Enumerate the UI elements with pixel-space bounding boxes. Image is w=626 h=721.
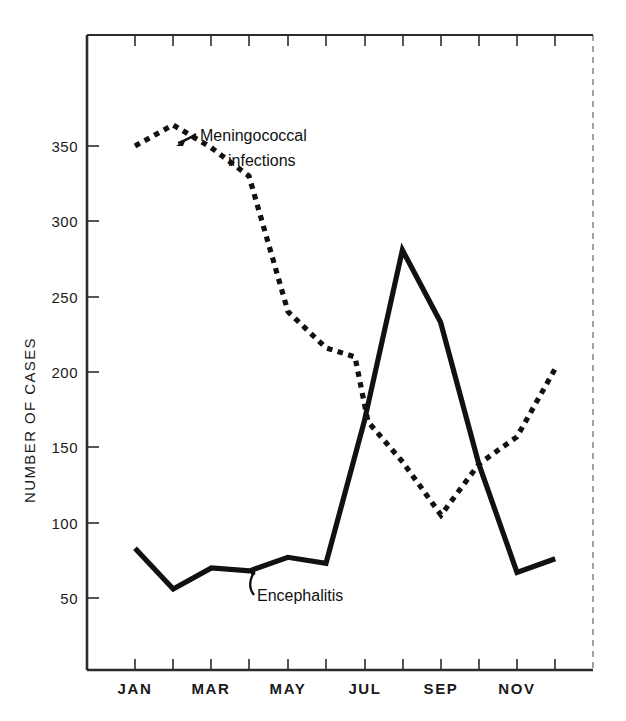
y-tick-label-150: 150	[51, 439, 78, 456]
x-tick-label-sep: SEP	[424, 680, 459, 697]
meningococcal-label-line2: infections	[228, 152, 296, 169]
line-chart: 350 300 250 200 150 100 50 NUMBER OF CAS…	[0, 0, 626, 721]
meningococcal-label-line1: Meningococcal	[200, 127, 307, 144]
encephalitis-pointer-dot-icon	[251, 571, 256, 576]
y-tick-label-350: 350	[51, 138, 78, 155]
x-tick-label-jan: JAN	[118, 680, 153, 697]
x-tick-label-nov: NOV	[498, 680, 535, 697]
x-tick-label-mar: MAR	[192, 680, 231, 697]
chart-figure: 350 300 250 200 150 100 50 NUMBER OF CAS…	[0, 0, 626, 721]
x-tick-label-jul: JUL	[348, 680, 381, 697]
y-tick-label-100: 100	[51, 515, 78, 532]
y-tick-label-250: 250	[51, 289, 78, 306]
y-tick-label-200: 200	[51, 364, 78, 381]
y-tick-label-300: 300	[51, 213, 78, 230]
y-axis-title: NUMBER OF CASES	[21, 337, 38, 503]
y-tick-label-50: 50	[60, 590, 78, 607]
encephalitis-label: Encephalitis	[257, 587, 343, 604]
x-tick-label-may: MAY	[270, 680, 307, 697]
chart-background	[0, 0, 626, 721]
